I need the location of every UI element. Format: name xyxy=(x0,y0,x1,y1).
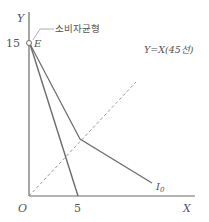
x-intercept-label: 5 xyxy=(74,202,81,215)
diagonal-label: Y=X(45선) xyxy=(144,44,194,55)
indifference-curve-label: I0 xyxy=(155,181,165,194)
y-intercept-label: 15 xyxy=(6,37,20,50)
equilibrium-label: E xyxy=(33,38,42,49)
indifference-curve-subscript: 0 xyxy=(160,186,165,194)
indifference-curve xyxy=(30,44,152,183)
diagonal-45-line xyxy=(29,82,136,196)
diagram-canvas: Y X O 15 5 E 소비자균형 Y=X(45선) I0 xyxy=(0,0,209,222)
origin-label: O xyxy=(18,202,27,215)
y-axis-label: Y xyxy=(17,12,26,25)
equilibrium-annotation: 소비자균형 xyxy=(55,23,100,34)
equilibrium-point xyxy=(27,41,32,46)
x-axis-label: X xyxy=(182,202,192,215)
budget-line xyxy=(30,44,78,196)
